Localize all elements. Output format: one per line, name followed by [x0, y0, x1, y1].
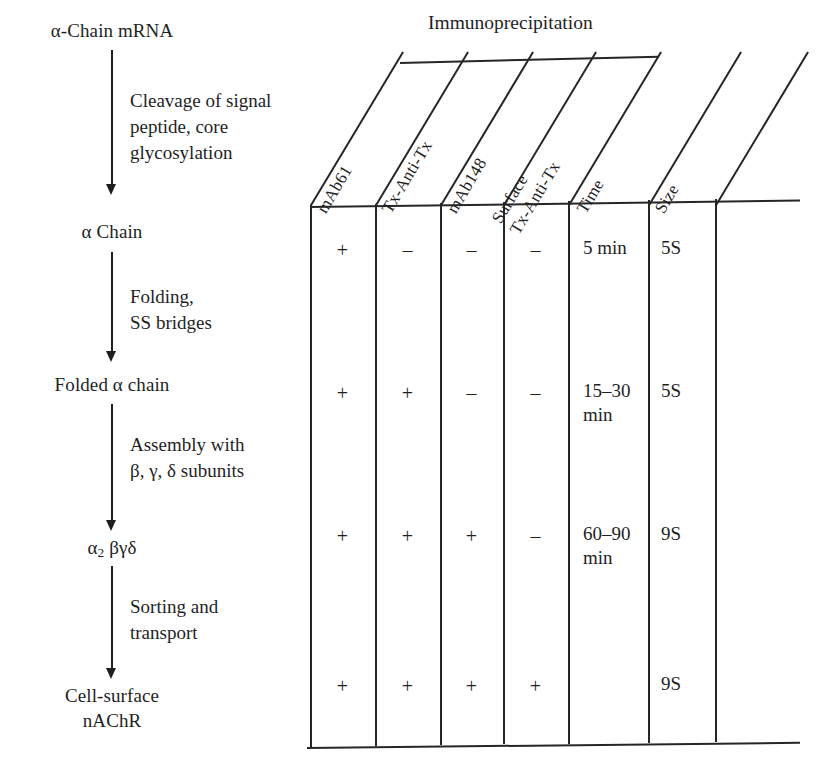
header-slant-6	[715, 52, 808, 206]
cell-mAb148: +	[440, 674, 503, 698]
col-divider-1	[375, 204, 377, 746]
column-header-size: Size	[650, 180, 683, 217]
col-divider-3	[503, 202, 505, 744]
cell-size: 5S	[661, 379, 716, 403]
col-divider-5	[648, 200, 650, 743]
flow-arrow-3	[105, 566, 119, 679]
cell-mAb148: –	[440, 238, 503, 262]
flow-stage-0: α-Chain mRNA	[51, 18, 174, 43]
flow-stage-4: Cell-surface nAChR	[65, 683, 159, 733]
cell-surface: +	[503, 674, 568, 698]
cell-time: 5 min	[583, 236, 653, 260]
flow-step-2: Assembly with β, γ, δ subunits	[130, 432, 245, 484]
column-header-mAb148: mAb148	[442, 154, 491, 217]
table-bottom-rule	[307, 742, 800, 749]
flow-arrow-1	[105, 252, 119, 362]
cell-size: 9S	[661, 672, 716, 696]
flow-arrow-2	[105, 404, 119, 531]
cell-size: 5S	[661, 236, 716, 260]
flow-step-1: Folding, SS bridges	[130, 284, 212, 336]
cell-tx-anti-tx: +	[375, 674, 440, 698]
col-divider-6	[715, 199, 717, 742]
cell-surface: –	[503, 524, 568, 548]
flow-stage-3: α2 βγδ	[88, 535, 137, 565]
cell-tx-anti-tx: +	[375, 381, 440, 405]
col-divider-0	[310, 205, 312, 747]
cell-size: 9S	[661, 522, 716, 546]
col-divider-2	[440, 203, 442, 745]
cell-mAb61: +	[310, 381, 375, 405]
cell-mAb148: +	[440, 524, 503, 548]
cell-time: 60–90 min	[583, 522, 655, 570]
cell-tx-anti-tx: –	[375, 238, 440, 262]
flow-stage-2: Folded α chain	[55, 372, 170, 397]
cell-mAb61: +	[310, 674, 375, 698]
column-header-time: Time	[572, 175, 609, 217]
cell-mAb61: +	[310, 238, 375, 262]
cell-surface: –	[503, 381, 568, 405]
flow-step-3: Sorting and transport	[130, 594, 218, 646]
column-header-surface-tx-anti-tx: Surface Tx-Anti-Tx	[487, 147, 565, 238]
cell-surface: –	[503, 238, 568, 262]
cell-mAb148: –	[440, 381, 503, 405]
figure-canvas: α-Chain mRNA Cleavage of signal peptide,…	[0, 0, 835, 782]
col-divider-4	[568, 201, 570, 744]
cell-tx-anti-tx: +	[375, 524, 440, 548]
flow-stage-1: α Chain	[82, 219, 143, 244]
flow-step-0: Cleavage of signal peptide, core glycosy…	[130, 88, 271, 166]
spanner-label: Immunoprecipitation	[428, 12, 593, 34]
cell-time: 15–30 min	[583, 379, 653, 427]
flow-arrow-0	[105, 50, 119, 195]
cell-mAb61: +	[310, 524, 375, 548]
